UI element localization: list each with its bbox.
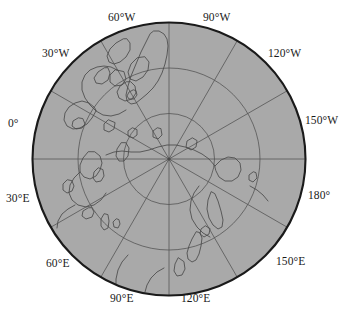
north-pole-point <box>167 157 170 160</box>
meridian-label-90W: 90°W <box>203 12 230 24</box>
meridian-label-60W: 60°W <box>108 12 135 24</box>
meridian-label-150W: 150°W <box>305 115 338 127</box>
meridian-label-0: 0° <box>8 118 19 130</box>
meridian-label-180: 180° <box>308 190 330 202</box>
meridian-label-30W: 30°W <box>42 48 69 60</box>
meridian-label-150E: 150°E <box>276 256 305 268</box>
polar-map-figure: 0° 30°E 60°E 90°E 120°E 150°E 180° 150°W… <box>0 0 351 316</box>
meridian-label-60E: 60°E <box>46 258 70 270</box>
meridian-label-90E: 90°E <box>110 293 134 305</box>
meridian-label-120W: 120°W <box>268 48 301 60</box>
meridian-label-30E: 30°E <box>6 193 30 205</box>
meridian-label-120E: 120°E <box>181 293 210 305</box>
